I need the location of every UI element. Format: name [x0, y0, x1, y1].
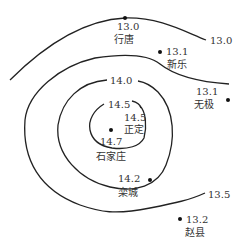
station-point-xinle [158, 50, 162, 54]
isoline-label-13-5: 13.5 [208, 189, 230, 200]
station-name-luancheng: 栾城 [118, 186, 138, 198]
station-name-zhaoxian: 赵县 [185, 226, 205, 238]
station-name-wuji: 无极 [194, 98, 214, 110]
station-value-luancheng: 14.2 [118, 173, 140, 184]
station-value-xinle: 13.1 [166, 46, 188, 57]
isoline-14-5-tail [132, 101, 141, 108]
isoline-label-13-0: 13.0 [210, 35, 232, 46]
isoline-label-14-0: 14.0 [110, 75, 132, 86]
station-name-xinle: 新乐 [167, 58, 187, 70]
isoline-map: 14.0 14.5 13.0 13.5 13.0 行唐 13.1 新乐 13.1… [0, 0, 244, 252]
station-name-xingtang: 行唐 [114, 33, 134, 45]
station-value-zhengding: 14.5 [124, 112, 146, 123]
station-name-shijiazhuang: 石家庄 [96, 150, 126, 162]
isoline-14-0 [58, 80, 173, 189]
isoline-label-14-5: 14.5 [108, 99, 130, 110]
station-value-wuji: 13.1 [196, 86, 218, 97]
station-point-wuji [226, 98, 230, 102]
station-value-zhaoxian: 13.2 [186, 214, 208, 225]
station-point-zhaoxian [178, 217, 182, 221]
station-point-luancheng [148, 178, 152, 182]
station-value-shijiazhuang: 14.7 [100, 136, 122, 147]
station-value-xingtang: 13.0 [117, 21, 139, 32]
station-point-zhengding [109, 128, 113, 132]
station-name-zhengding: 正定 [124, 123, 144, 135]
station-point-xingtang [123, 16, 127, 20]
